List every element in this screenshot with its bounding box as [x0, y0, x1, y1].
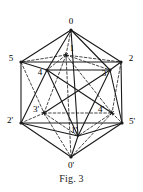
vertex-dot-5p [120, 121, 123, 124]
visible-edge [121, 62, 122, 123]
visible-edge [71, 30, 121, 62]
vertex-label-4p: 4' [98, 104, 105, 114]
vertex-label-5: 5 [9, 53, 14, 63]
vertex-label-1: 1 [70, 43, 75, 53]
hidden-edge [21, 55, 66, 62]
hidden-edge [21, 113, 44, 123]
hidden-edge [66, 55, 121, 62]
vertex-label-3: 3 [102, 68, 107, 78]
hidden-edge [44, 113, 71, 157]
vertex-label-4: 4 [38, 67, 43, 77]
visible-edge [110, 62, 121, 70]
vertex-dot-5 [19, 60, 22, 63]
vertex-label-0: 0 [69, 16, 74, 26]
vertex-dot-0p [69, 155, 72, 158]
vertex-label-1p: 1' [71, 125, 78, 135]
figure-caption: Fig. 3 [0, 173, 143, 184]
visible-edge [110, 70, 122, 123]
visible-edge [21, 62, 47, 70]
hidden-edge [112, 62, 121, 113]
visible-edge [21, 30, 71, 62]
visible-edge [78, 123, 122, 136]
vertex-dot-2p [19, 121, 22, 124]
vertex-label-2p: 2' [7, 115, 14, 125]
visible-edge [71, 30, 110, 70]
vertex-dot-2 [119, 60, 122, 63]
vertex-dot-4 [45, 68, 48, 71]
vertex-label-3p: 3' [33, 104, 40, 114]
vertex-star-3p [41, 110, 46, 115]
vertex-dot-3 [108, 68, 111, 71]
vertex-dot-0 [69, 28, 72, 31]
visible-edge [21, 123, 71, 157]
visible-edge [21, 70, 47, 123]
visible-edge [71, 136, 78, 157]
vertex-label-5p: 5' [129, 116, 136, 126]
icosahedron-figure: 0125343'4'2'5'1'0' [0, 0, 143, 192]
figure-page: 0125343'4'2'5'1'0' Fig. 3 [0, 0, 143, 192]
vertex-label-0p: 0' [68, 160, 75, 170]
visible-edge [71, 123, 122, 157]
vertex-label-2: 2 [129, 53, 134, 63]
